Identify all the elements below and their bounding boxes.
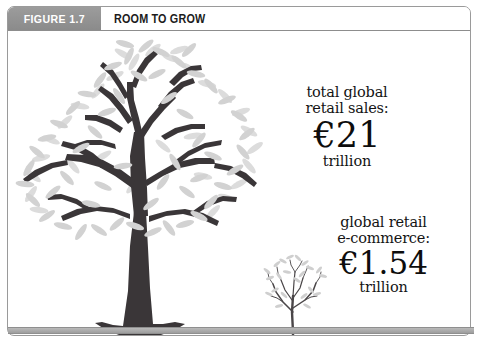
callout-total-line1: total global	[257, 85, 437, 101]
callout-total-unit: trillion	[257, 153, 437, 169]
ground-bar	[8, 327, 474, 334]
figure-container: FIGURE 1.7 ROOM TO GROW	[0, 0, 481, 355]
callout-ecom-amount: €1.54	[296, 247, 470, 280]
callout-total-amount: €21	[257, 117, 437, 154]
callout-ecom-line1: global retail	[296, 215, 470, 231]
figure-title: ROOM TO GROW	[114, 7, 205, 31]
callout-ecom-unit: trillion	[296, 279, 470, 295]
figure-header: FIGURE 1.7 ROOM TO GROW	[8, 7, 470, 31]
figure-canvas: total global retail sales: €21 trillion …	[8, 31, 470, 335]
callout-ecom-line2: e-commerce:	[296, 231, 470, 247]
large-tree	[8, 36, 273, 335]
callout-total-retail-sales: total global retail sales: €21 trillion	[257, 85, 437, 169]
callout-total-line2: retail sales:	[257, 101, 437, 117]
callout-global-retail-ecommerce: global retail e-commerce: €1.54 trillion	[296, 215, 470, 295]
figure-number-tab: FIGURE 1.7	[8, 7, 101, 31]
figure-number-label: FIGURE 1.7	[24, 13, 85, 25]
